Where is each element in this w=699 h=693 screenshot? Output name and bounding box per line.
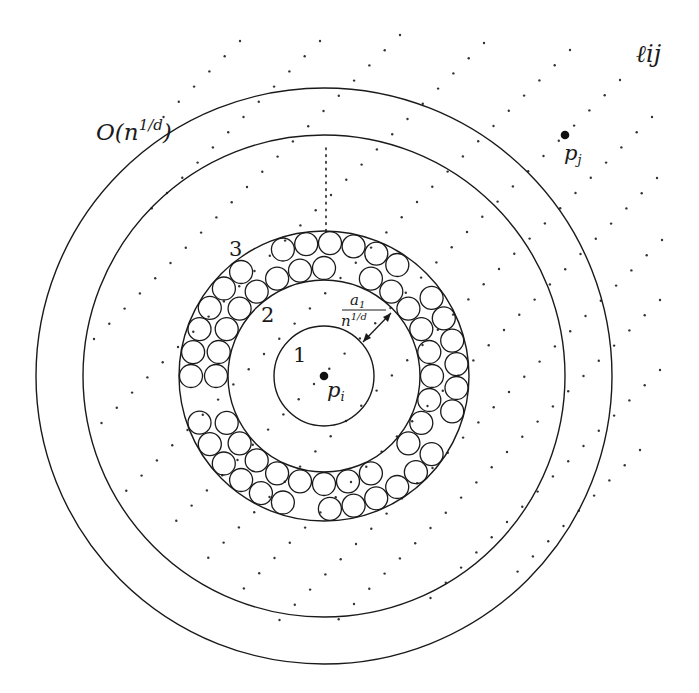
point-p-j [561,131,570,140]
dot-lattice-band-lij [93,34,663,621]
label-region-3: 3 [229,237,242,261]
radial-gap-arrow [363,313,391,342]
label-region-1: 1 [293,343,306,367]
fraction-numerator: a [350,291,359,309]
label-band-lij: ℓij [636,40,662,68]
svg-text:n1/d: n1/d [341,311,367,330]
label-p-j: pj [564,141,581,167]
annulus-packing-diagram: a1 n1/d 1 2 3 O(n1/d) ℓij pi pj [0,0,699,693]
svg-text:a1: a1 [350,291,365,310]
label-outer-O-n1d: O(n1/d) [96,116,172,145]
label-region-2: 2 [261,303,274,327]
label-p-i: pi [327,378,345,404]
fraction-denominator: n [341,312,351,330]
